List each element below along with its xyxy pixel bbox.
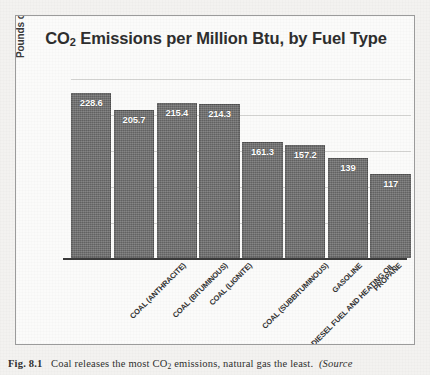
bar-value-label: 117	[370, 178, 410, 189]
caption-subscript: 2	[167, 362, 171, 370]
bar-slot: 117	[370, 79, 410, 258]
bar-coal-bituminous[interactable]: 205.7	[114, 110, 154, 258]
bar-natural-gas[interactable]: 117	[370, 174, 410, 258]
chart-figure-frame: CO2 Emissions per Million Btu, by Fuel T…	[15, 15, 415, 345]
figure-number: Fig. 8.1	[8, 358, 43, 369]
chart-title: CO2 Emissions per Million Btu, by Fuel T…	[34, 28, 398, 49]
bar-value-label: 157.2	[285, 149, 325, 160]
chart-title-subscript: 2	[70, 36, 76, 48]
figure-caption: Fig. 8.1 Coal releases the most CO2 emis…	[8, 358, 426, 369]
bar-slot: 157.2	[285, 79, 325, 258]
bar-slot: 139	[328, 79, 368, 258]
bar-gasoline[interactable]: 157.2	[285, 145, 325, 258]
chart-title-rest: Emissions per Million Btu, by Fuel Type	[76, 29, 387, 47]
y-axis-label: Pounds of CO2	[15, 15, 26, 58]
bar-series: 228.6 205.7 215.4 214.3 161.3	[71, 79, 411, 258]
bar-value-label: 228.6	[71, 97, 111, 108]
chart-title-main: CO	[45, 29, 70, 47]
bar-slot: 214.3	[199, 79, 239, 258]
plot-area: 228.6 205.7 215.4 214.3 161.3	[71, 79, 411, 259]
bar-value-label: 161.3	[242, 146, 282, 157]
x-axis-line	[63, 258, 407, 260]
caption-source: (Source	[319, 358, 353, 369]
bar-coal-lignite[interactable]: 215.4	[157, 103, 197, 258]
bar-slot: 228.6	[71, 79, 111, 258]
caption-text-main: Coal releases the most CO	[51, 358, 167, 369]
x-axis-tick-labels: COAL (ANTHRACITE) COAL (BITUMINOUS) COAL…	[71, 261, 411, 345]
y-axis-label-main: Pounds of CO	[15, 15, 26, 58]
bar-value-label: 215.4	[157, 107, 197, 118]
bar-coal-subbituminous[interactable]: 214.3	[199, 104, 239, 258]
bar-coal-anthracite[interactable]: 228.6	[71, 93, 111, 258]
bar-value-label: 139	[328, 162, 368, 173]
bar-diesel-fuel-heating-oil[interactable]: 161.3	[242, 142, 282, 258]
bar-slot: 161.3	[242, 79, 282, 258]
bar-slot: 215.4	[157, 79, 197, 258]
bar-value-label: 214.3	[199, 108, 239, 119]
bar-propane[interactable]: 139	[328, 158, 368, 258]
x-tick-label-gasoline: GASOLINE	[330, 261, 364, 295]
caption-text-rest: emissions, natural gas the least.	[171, 358, 313, 369]
bar-slot: 205.7	[114, 79, 154, 258]
bar-value-label: 205.7	[114, 114, 154, 125]
x-tick-label-coal-subbituminous: COAL (SUBBITUMINOUS)	[260, 261, 330, 331]
